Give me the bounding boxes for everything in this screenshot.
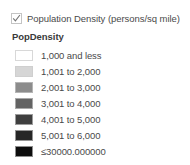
legend-panel: Population Density (persons/sq mile) Pop… [0,0,190,165]
legend-color-swatch[interactable] [15,98,33,109]
layer-item[interactable]: Population Density (persons/sq mile) [11,13,180,24]
legend-class-row[interactable]: 4,001 to 5,000 [15,111,185,127]
legend-class-row[interactable]: 1,000 and less [15,47,185,63]
legend-color-swatch[interactable] [15,146,33,157]
legend-class-row[interactable]: 3,001 to 4,000 [15,95,185,111]
legend-color-swatch[interactable] [15,66,33,77]
legend-class-label: 4,001 to 5,000 [41,114,100,125]
legend-class-label: 5,001 to 6,000 [41,130,100,141]
legend-class-label: ≤30000.000000 [41,146,106,157]
legend-class-row[interactable]: ≤30000.000000 [15,143,185,159]
legend-class-label: 2,001 to 3,000 [41,82,100,93]
legend-class-row[interactable]: 2,001 to 3,000 [15,79,185,95]
legend-class-row[interactable]: 5,001 to 6,000 [15,127,185,143]
legend-class-label: 1,000 and less [41,50,101,61]
layer-title: Population Density (persons/sq mile) [27,13,180,24]
legend-color-swatch[interactable] [15,114,33,125]
legend-class-label: 1,001 to 2,000 [41,66,100,77]
legend-class-label: 3,001 to 4,000 [41,98,100,109]
symbology-field-name: PopDensity [12,31,64,43]
legend-color-swatch[interactable] [15,130,33,141]
legend-class-row[interactable]: 1,001 to 2,000 [15,63,185,79]
layer-visibility-checkbox[interactable] [11,13,22,24]
legend-color-swatch[interactable] [15,50,33,61]
legend-color-swatch[interactable] [15,82,33,93]
checkmark-icon [12,14,21,23]
legend-class-list: 1,000 and less1,001 to 2,0002,001 to 3,0… [15,47,185,159]
